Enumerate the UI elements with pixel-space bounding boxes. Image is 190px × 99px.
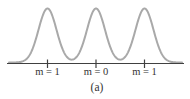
intensity-curve xyxy=(9,9,182,63)
order-label-right: m = 1 xyxy=(132,66,157,78)
order-label-left: m = 1 xyxy=(35,66,60,78)
interference-pattern-figure: m = 1 m = 0 m = 1 (a) xyxy=(0,0,190,99)
figure-caption: (a) xyxy=(91,81,104,94)
order-label-center: m = 0 xyxy=(84,66,109,78)
